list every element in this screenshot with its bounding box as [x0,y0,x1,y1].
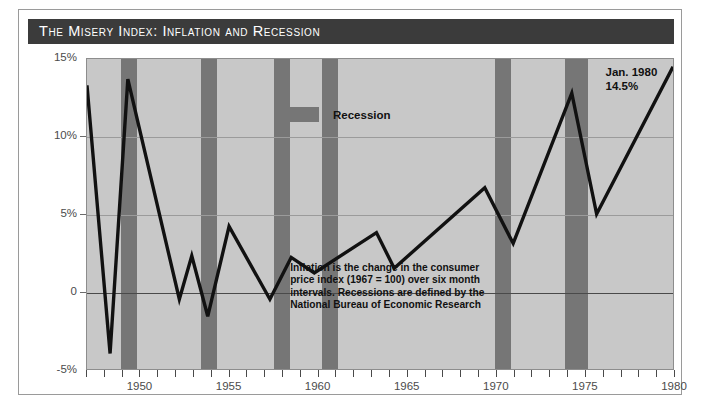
chart-title: The Misery Index: Inflation and Recessio… [39,23,320,39]
y-axis: -5%05%10%15% [28,52,86,372]
x-axis-tick-mark [122,370,123,377]
x-axis-tick-mark [157,370,158,377]
x-axis-tick-mark [211,370,212,377]
x-axis-tick-mark [407,370,408,377]
x-axis-tick-mark [86,370,87,377]
x-axis-tick-mark [531,370,532,377]
x-axis-tick-mark [425,370,426,377]
x-axis-tick-mark [549,370,550,377]
x-axis-tick-mark [442,370,443,377]
x-axis-tick-mark [193,370,194,377]
y-axis-tick-label: 10% [54,129,77,141]
x-axis-tick-mark [300,370,301,377]
x-axis-tick-mark [621,370,622,377]
y-axis-tick-label: 15% [54,51,77,63]
x-axis-tick-mark [514,370,515,377]
peak-callout-date: Jan. 1980 [606,65,658,79]
series-line-inflation [87,59,673,369]
peak-callout-value: 14.5% [606,79,658,93]
x-axis-tick-mark [603,370,604,377]
x-axis-tick-mark [175,370,176,377]
chart-note: Inflation is the change in the consumer … [290,262,485,312]
legend-label-recession: Recession [333,109,391,121]
x-axis-tick-mark [139,370,140,377]
x-axis-ticks [86,370,674,378]
y-axis-tick-label: 5% [60,207,77,219]
x-axis-tick-mark [656,370,657,377]
x-axis-tick-mark [229,370,230,377]
x-axis-tick-mark [264,370,265,377]
x-axis-tick-label: 1960 [305,380,331,392]
peak-callout: Jan. 1980 14.5% [606,65,658,93]
x-axis-tick-mark [353,370,354,377]
x-axis-tick-mark [585,370,586,377]
chart-figure: The Misery Index: Inflation and Recessio… [18,9,682,395]
x-axis-tick-mark [567,370,568,377]
y-axis-tick-label: 0 [71,285,77,297]
x-axis-tick-label: 1980 [661,380,687,392]
x-axis-tick-mark [246,370,247,377]
y-axis-tick-label: -5% [57,363,77,375]
x-axis-tick-mark [674,370,675,377]
x-axis-tick-mark [638,370,639,377]
x-axis-tick-label: 1970 [483,380,509,392]
legend-swatch-recession [283,107,319,122]
x-axis-tick-mark [496,370,497,377]
x-axis-tick-label: 1950 [127,380,153,392]
x-axis-tick-mark [371,370,372,377]
plot-wrapper: -5%05%10%15% Recession Inflation is the … [28,52,674,386]
x-axis-tick-mark [335,370,336,377]
x-axis-tick-label: 1965 [394,380,420,392]
x-axis-tick-mark [282,370,283,377]
x-axis-labels: 1950195519601965197019751980 [86,380,674,396]
plot-area: Recession Inflation is the change in the… [86,58,674,370]
legend: Recession [283,107,391,122]
x-axis-tick-label: 1975 [572,380,598,392]
x-axis-tick-mark [104,370,105,377]
x-axis-tick-mark [389,370,390,377]
x-axis-tick-mark [460,370,461,377]
chart-title-bar: The Misery Index: Inflation and Recessio… [28,19,674,44]
x-axis-tick-mark [318,370,319,377]
x-axis-tick-mark [478,370,479,377]
x-axis-tick-label: 1955 [216,380,242,392]
